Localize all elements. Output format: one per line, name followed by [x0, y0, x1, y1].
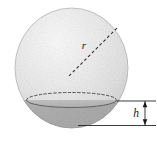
radius-label: r [82, 39, 87, 51]
spherical-cap-figure: r h [0, 0, 157, 143]
height-label: h [133, 107, 139, 119]
figure-canvas: r h [0, 0, 157, 143]
arrowhead-up-icon [143, 102, 148, 108]
arrowhead-down-icon [143, 119, 148, 125]
